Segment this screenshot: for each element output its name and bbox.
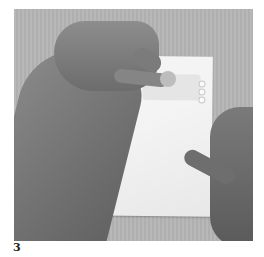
punched-circle xyxy=(198,89,205,96)
pinched-tab xyxy=(160,71,176,87)
instruction-photo xyxy=(14,9,253,241)
step-number: 3 xyxy=(13,242,21,254)
punched-circle xyxy=(199,81,206,88)
punched-circle xyxy=(198,97,205,104)
